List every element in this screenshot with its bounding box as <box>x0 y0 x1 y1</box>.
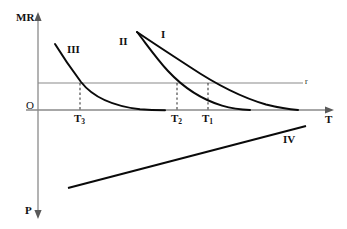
tick-sub-t2: 2 <box>178 117 182 126</box>
curve-label-II: II <box>119 36 128 47</box>
curve-label-III: III <box>67 44 80 55</box>
tick-label-t2: T2 <box>171 113 182 124</box>
curve-label-IV: IV <box>283 134 295 145</box>
tick-sub-t3: 3 <box>81 117 85 126</box>
economics-mr-diagram: MR P T O r I II III IV T3 T2 T1 <box>0 0 347 229</box>
tick-label-t3: T3 <box>74 113 85 124</box>
y-axis-label-p: P <box>25 205 32 216</box>
vertical-axis-top-arrow <box>34 12 41 21</box>
curve-I <box>137 32 298 110</box>
y-axis-label-mr: MR <box>16 12 34 23</box>
origin-label: O <box>26 100 34 111</box>
curve-label-I: I <box>161 29 165 40</box>
tick-sub-t1: 1 <box>209 117 213 126</box>
line-IV <box>68 126 306 188</box>
tick-label-t1: T1 <box>202 113 213 124</box>
vertical-axis-bottom-arrow <box>34 210 41 219</box>
x-axis-label-t: T <box>325 114 332 125</box>
rate-line-label-r: r <box>305 78 308 86</box>
